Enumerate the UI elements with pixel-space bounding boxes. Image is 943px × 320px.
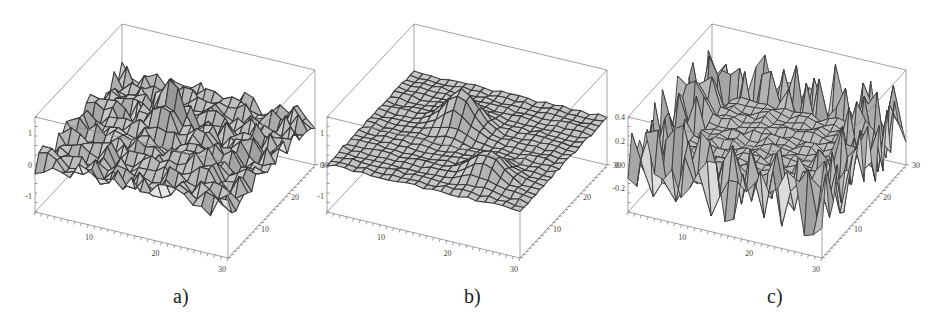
z-tick-label: 0 [28,161,32,170]
z-tick-label: 1 [28,129,32,138]
z-tick-label: 0.2 [615,137,625,146]
x-tick-label: 10 [678,233,686,242]
caption-c: c) [767,285,783,308]
z-tick-label: 0.4 [615,113,625,122]
x-tick-label: 10 [85,233,93,242]
z-tick-label: 0.0 [615,161,625,170]
y-tick-label: 10 [553,225,561,234]
x-tick-label: 20 [745,249,753,258]
surface-mesh [35,62,315,215]
caption-a: a) [173,285,189,308]
y-tick-label: 20 [583,193,591,202]
surface-mesh [327,71,607,211]
x-tick-label: 10 [377,233,385,242]
x-tick-label: 20 [443,249,451,258]
z-tick-label: -1 [25,192,32,201]
x-tick-label: 30 [812,265,820,274]
panel-c: 1020301020300.40.20.0-0.2 [594,0,908,320]
panel-b: 10203010203010-1 [292,0,606,320]
surface-plot-c: 1020301020300.40.20.0-0.2 [594,0,934,280]
surface-plot-b: 10203010203010-1 [292,0,622,280]
z-tick-label: -1 [317,192,324,201]
z-tick-label: -0.2 [612,184,625,193]
x-tick-label: 30 [510,265,518,274]
y-tick-label: 30 [912,161,920,170]
caption-b: b) [464,285,481,308]
x-tick-label: 30 [218,265,226,274]
x-tick-label: 20 [151,249,159,258]
y-tick-label: 10 [261,225,269,234]
z-tick-label: 0 [320,161,324,170]
y-tick-label: 20 [883,193,891,202]
surface-mesh [628,51,906,236]
z-tick-label: 1 [320,129,324,138]
panel-a: 10203010203010-1 [0,0,314,320]
y-tick-label: 10 [854,225,862,234]
surface-plot-a: 10203010203010-1 [0,0,330,280]
